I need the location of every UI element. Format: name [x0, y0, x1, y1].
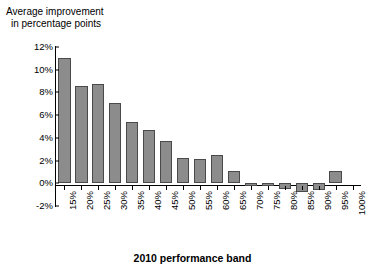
x-tick-mark [234, 186, 235, 190]
bar [92, 84, 104, 183]
x-tick-label: 70% [255, 191, 265, 210]
x-tick-label: 90% [323, 191, 333, 210]
y-tick-mark [55, 206, 59, 207]
x-tick-mark [251, 186, 252, 190]
bar-series [56, 47, 361, 206]
x-tick-label: 25% [102, 191, 112, 210]
y-axis-ticks: 12%10%8%6%4%2%0%-2% [0, 0, 53, 274]
bar [126, 122, 138, 183]
x-tick-label: 95% [340, 191, 350, 210]
x-tick-mark [336, 186, 337, 190]
x-tick-mark [217, 186, 218, 190]
x-axis-title: 2010 performance band [0, 252, 385, 264]
x-tick-mark [285, 186, 286, 190]
y-tick-label: 8% [39, 88, 53, 98]
x-tick-mark [268, 186, 269, 190]
x-tick-mark [64, 186, 65, 190]
x-tick-mark [200, 186, 201, 190]
y-tick-mark [55, 92, 59, 93]
bar [329, 171, 341, 183]
bar-chart: Average improvementin percentage points … [0, 0, 385, 274]
x-tick-label: 50% [187, 191, 197, 210]
x-tick-label: 35% [136, 191, 146, 210]
y-tick-label: 4% [39, 133, 53, 143]
x-tick-label: 65% [238, 191, 248, 210]
x-tick-mark [353, 186, 354, 190]
x-tick-mark [149, 186, 150, 190]
x-tick-label: 15% [68, 191, 78, 210]
y-tick-label: -2% [36, 201, 53, 211]
bar [177, 158, 189, 183]
x-tick-label: 40% [153, 191, 163, 210]
x-tick-label: 80% [289, 191, 299, 210]
bar [109, 103, 121, 184]
y-tick-mark [55, 137, 59, 138]
x-tick-mark [81, 186, 82, 190]
bar [58, 58, 70, 183]
x-tick-label: 30% [119, 191, 129, 210]
bar [228, 171, 240, 183]
x-tick-label: 100% [357, 191, 367, 215]
x-tick-mark [319, 186, 320, 190]
y-tick-label: 0% [39, 179, 53, 189]
y-tick-mark [55, 47, 59, 48]
x-tick-mark [183, 186, 184, 190]
x-tick-mark [98, 186, 99, 190]
y-tick-mark [55, 69, 59, 70]
bar [194, 159, 206, 183]
y-tick-label: 12% [34, 42, 53, 52]
x-tick-mark [302, 186, 303, 190]
y-tick-label: 10% [34, 65, 53, 75]
x-tick-mark [166, 186, 167, 190]
x-tick-label: 60% [221, 191, 231, 210]
y-tick-mark [55, 115, 59, 116]
bar [211, 155, 223, 183]
x-tick-mark [132, 186, 133, 190]
x-tick-label: 55% [204, 191, 214, 210]
x-tick-mark [115, 186, 116, 190]
x-tick-label: 20% [85, 191, 95, 210]
bar [143, 130, 155, 183]
bar [160, 141, 172, 183]
bar [75, 86, 87, 184]
y-tick-mark [55, 183, 59, 184]
x-tick-label: 85% [306, 191, 316, 210]
x-tick-label: 45% [170, 191, 180, 210]
y-tick-label: 2% [39, 156, 53, 166]
y-tick-label: 6% [39, 110, 53, 120]
y-tick-mark [55, 160, 59, 161]
x-tick-label: 75% [272, 191, 282, 210]
